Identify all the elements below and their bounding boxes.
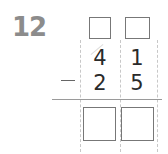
answer-box-tens[interactable] [83,107,116,141]
regroup-box-tens[interactable] [89,17,111,39]
column-guide-line [80,40,81,152]
minuend-tens-digit: 4 [88,48,112,69]
subtrahend-tens-digit: 2 [88,73,112,94]
answer-box-ones[interactable] [121,107,154,141]
minus-sign [61,80,75,81]
answer-rule-line [52,99,162,100]
minuend-ones-digit: 1 [125,48,149,69]
problem-number: 12 [12,14,46,40]
regroup-box-ones[interactable] [125,17,150,39]
subtrahend-ones-digit: 5 [125,73,149,94]
column-guide-line [157,40,158,152]
